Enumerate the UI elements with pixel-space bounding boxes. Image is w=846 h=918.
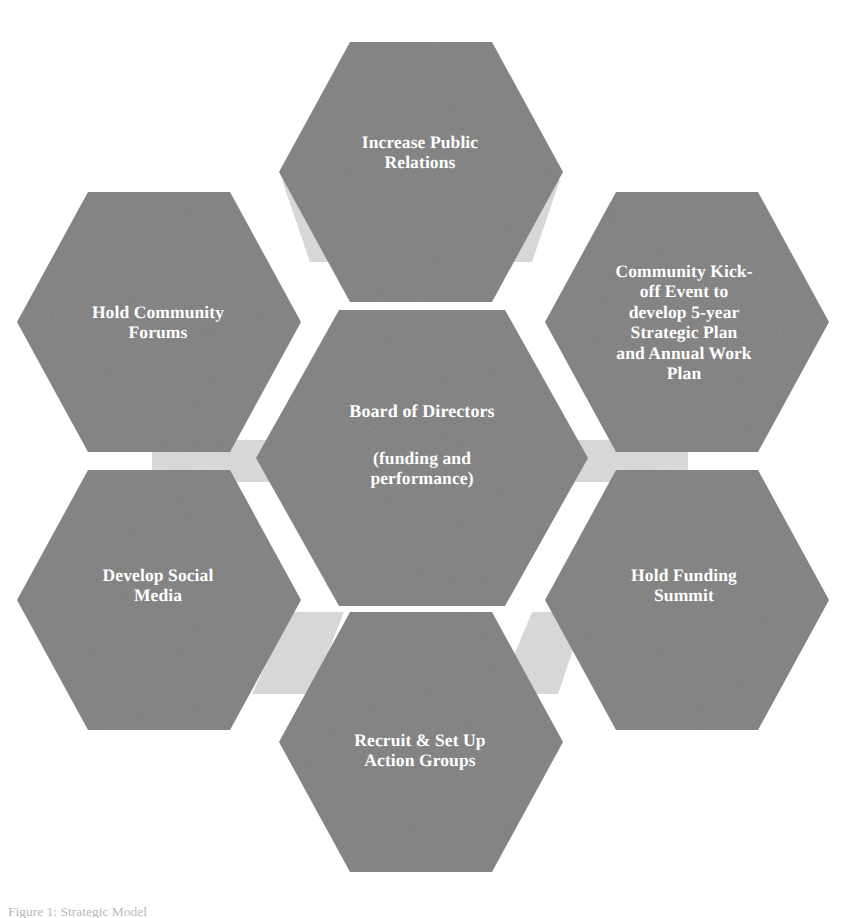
hexagon-hold-funding-summit[interactable] xyxy=(545,470,829,730)
hexagon-increase-public-relations[interactable] xyxy=(279,42,563,302)
hexagon-community-kickoff-event[interactable] xyxy=(545,192,829,452)
hexagon-board-of-directors[interactable] xyxy=(256,310,588,606)
hexagon-group xyxy=(17,42,829,872)
hexagon-hold-community-forums[interactable] xyxy=(17,192,301,452)
